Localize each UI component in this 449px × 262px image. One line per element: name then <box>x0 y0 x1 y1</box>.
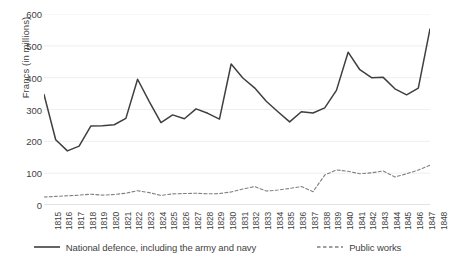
legend-item-public-works[interactable]: Public works <box>316 242 401 253</box>
x-axis-tick-label: 1848 <box>439 212 449 230</box>
x-axis-tick-label: 1817 <box>76 212 86 230</box>
x-axis-tick-label: 1820 <box>111 212 121 230</box>
x-axis-tick-label: 1828 <box>205 212 215 230</box>
x-axis-tick-label: 1825 <box>169 212 179 230</box>
y-axis-tick-label: 200 <box>14 136 42 147</box>
legend-solid-line-icon <box>33 242 61 252</box>
x-axis-tick-label: 1815 <box>53 212 63 230</box>
y-axis-tick-label: 400 <box>14 72 42 83</box>
x-axis-tick-label: 1843 <box>380 212 390 230</box>
x-axis-tick-label: 1839 <box>333 212 343 230</box>
x-axis-tick-label: 1826 <box>181 212 191 230</box>
series-lines <box>44 29 430 197</box>
y-axis-tick-label: 600 <box>14 9 42 20</box>
legend-label-national-defence: National defence, including the army and… <box>66 242 256 253</box>
x-axis-tick-label: 1827 <box>193 212 203 230</box>
x-axis-tick-label: 1821 <box>123 212 133 230</box>
x-axis-tick-label: 1842 <box>368 212 378 230</box>
x-axis-tick-label: 1837 <box>310 212 320 230</box>
x-axis-tick-label: 1831 <box>240 212 250 230</box>
x-axis-tick-label: 1836 <box>298 212 308 230</box>
x-axis-tick-label: 1834 <box>275 212 285 230</box>
y-axis-tick-label: 100 <box>14 168 42 179</box>
plot-svg <box>44 14 430 205</box>
x-axis-tick-label: 1818 <box>88 212 98 230</box>
plot-area <box>44 14 430 205</box>
x-axis-tick-label: 1838 <box>322 212 332 230</box>
x-axis-tick-label: 1847 <box>427 212 437 230</box>
legend-dashed-line-icon <box>316 242 344 252</box>
y-axis-tick-label: 500 <box>14 40 42 51</box>
x-axis-tick-label: 1844 <box>392 212 402 230</box>
series-line-1 <box>44 165 430 197</box>
x-axis-tick-label: 1824 <box>158 212 168 230</box>
y-axis-tick-label: 0 <box>14 200 42 211</box>
chart-legend: National defence, including the army and… <box>0 237 434 257</box>
x-axis-tick-label: 1845 <box>403 212 413 230</box>
x-axis-tick-label: 1833 <box>263 212 273 230</box>
y-axis-tick-label: 300 <box>14 104 42 115</box>
x-axis-tick-label: 1846 <box>415 212 425 230</box>
legend-item-national-defence[interactable]: National defence, including the army and… <box>33 242 256 253</box>
y-axis-tick-labels: 6005004003002001000 <box>14 0 42 262</box>
x-axis-tick-label: 1835 <box>286 212 296 230</box>
series-line-0 <box>44 29 430 151</box>
x-axis-tick-labels: 1815181618171818181918201821182218231824… <box>44 206 430 232</box>
x-axis-tick-label: 1832 <box>251 212 261 230</box>
x-axis-tick-label: 1823 <box>146 212 156 230</box>
x-axis-tick-label: 1829 <box>216 212 226 230</box>
legend-label-public-works: Public works <box>349 242 401 253</box>
x-axis-tick-label: 1816 <box>64 212 74 230</box>
x-axis-tick-label: 1840 <box>345 212 355 230</box>
x-axis-tick-label: 1841 <box>357 212 367 230</box>
x-axis-tick-label: 1822 <box>134 212 144 230</box>
x-axis-tick-label: 1819 <box>99 212 109 230</box>
gridlines <box>44 14 430 205</box>
x-axis-tick-label: 1830 <box>228 212 238 230</box>
